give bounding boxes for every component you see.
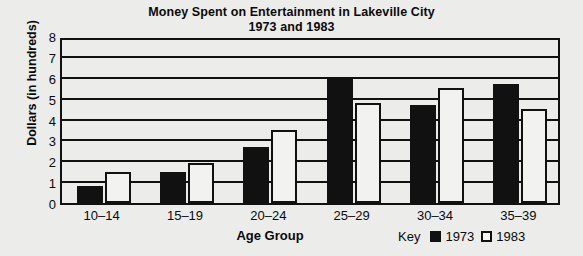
x-tick-label: 15–19 bbox=[145, 208, 225, 223]
gridline bbox=[62, 160, 558, 162]
bar-1973-20–24 bbox=[243, 147, 269, 203]
y-tick-label: 2 bbox=[38, 157, 56, 169]
bar-1973-15–19 bbox=[160, 172, 186, 203]
x-axis-title: Age Group bbox=[195, 228, 345, 243]
legend-swatch-filled-icon bbox=[430, 231, 441, 242]
bar-1973-10–14 bbox=[77, 186, 103, 203]
x-tick-label: 10–14 bbox=[62, 208, 142, 223]
bar-1973-35–39 bbox=[493, 84, 519, 203]
legend-swatch-hollow-icon bbox=[481, 231, 492, 242]
y-tick-label: 7 bbox=[38, 53, 56, 65]
gridline bbox=[62, 56, 558, 58]
bar-1983-10–14 bbox=[105, 172, 131, 203]
bar-1973-30–34 bbox=[410, 105, 436, 203]
chart-title: Money Spent on Entertainment in Lakevill… bbox=[0, 5, 583, 34]
gridline bbox=[62, 77, 558, 79]
legend-entry-1973: 1973 bbox=[430, 229, 474, 244]
x-tick-label: 25–29 bbox=[312, 208, 392, 223]
chart-title-line2: 1973 and 1983 bbox=[0, 20, 583, 35]
y-tick-label: 3 bbox=[38, 136, 56, 148]
y-axis-tick-labels: 012345678 bbox=[36, 38, 56, 205]
y-tick-label: 5 bbox=[38, 95, 56, 107]
y-tick-label: 8 bbox=[38, 32, 56, 44]
bar-1983-35–39 bbox=[521, 109, 547, 203]
x-tick-label: 30–34 bbox=[395, 208, 475, 223]
chart-figure: Money Spent on Entertainment in Lakevill… bbox=[0, 0, 583, 256]
x-tick-label: 20–24 bbox=[228, 208, 308, 223]
y-tick-label: 4 bbox=[38, 116, 56, 128]
x-tick-label: 35–39 bbox=[478, 208, 558, 223]
gridline bbox=[62, 139, 558, 141]
gridline bbox=[62, 98, 558, 100]
legend-entry-1983: 1983 bbox=[481, 229, 525, 244]
chart-legend: Key 1973 1983 bbox=[398, 229, 525, 244]
bar-1983-25–29 bbox=[355, 103, 381, 203]
bar-1983-30–34 bbox=[438, 88, 464, 203]
bar-1983-15–19 bbox=[188, 163, 214, 203]
bar-1973-25–29 bbox=[327, 78, 353, 203]
gridline bbox=[62, 181, 558, 183]
bar-1983-20–24 bbox=[271, 130, 297, 203]
y-tick-label: 0 bbox=[38, 199, 56, 211]
y-tick-label: 6 bbox=[38, 74, 56, 86]
legend-key-label: Key bbox=[398, 229, 420, 244]
y-tick-label: 1 bbox=[38, 178, 56, 190]
gridline bbox=[62, 119, 558, 121]
legend-label-1983: 1983 bbox=[496, 229, 525, 244]
chart-title-line1: Money Spent on Entertainment in Lakevill… bbox=[0, 5, 583, 20]
plot-area bbox=[60, 38, 560, 205]
legend-label-1973: 1973 bbox=[445, 229, 474, 244]
